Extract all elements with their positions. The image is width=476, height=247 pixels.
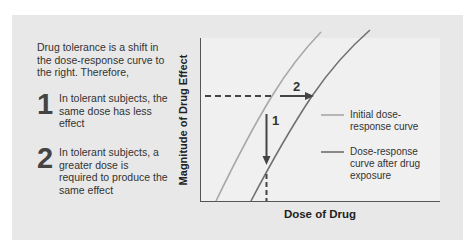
legend-shifted-label: Dose-response curve after drug exposure xyxy=(350,146,440,182)
legend-initial-label: Initial dose-response curve xyxy=(350,109,440,133)
arrow-2-label: 2 xyxy=(293,79,300,94)
arrow-1-head-icon xyxy=(263,156,271,165)
arrow-1-label: 1 xyxy=(272,113,279,128)
initial-curve xyxy=(216,32,321,201)
